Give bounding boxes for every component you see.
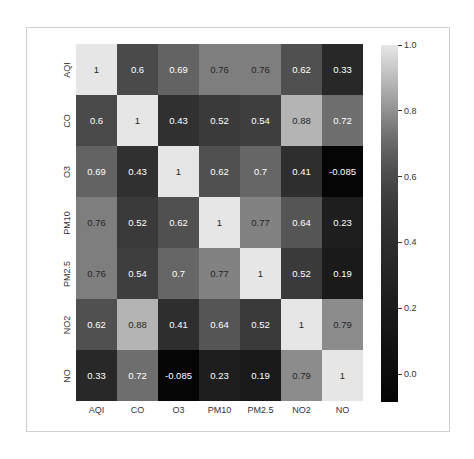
heatmap-cell: 0.79 xyxy=(281,350,322,401)
x-tick-label: CO xyxy=(117,405,158,415)
heatmap-cell: 0.62 xyxy=(76,299,117,350)
heatmap-cell: 0.79 xyxy=(322,299,363,350)
heatmap-cell: 0.72 xyxy=(322,95,363,146)
heatmap-cell: 0.52 xyxy=(199,95,240,146)
heatmap-cell: 0.41 xyxy=(281,146,322,197)
heatmap-cell: 1 xyxy=(158,146,199,197)
heatmap-cell: 0.23 xyxy=(199,350,240,401)
heatmap-cell: 1 xyxy=(240,248,281,299)
heatmap-cell: 0.6 xyxy=(117,44,158,95)
colorbar-tick-label: 0.0 xyxy=(404,369,417,379)
heatmap-cell: 0.54 xyxy=(240,95,281,146)
y-tick-label-text: CO xyxy=(62,114,72,128)
colorbar-tick-label: 0.4 xyxy=(404,237,417,247)
heatmap-cell: 0.52 xyxy=(117,197,158,248)
heatmap-cell: 0.77 xyxy=(199,248,240,299)
tick-mark xyxy=(398,308,402,309)
heatmap-cell: 0.76 xyxy=(76,197,117,248)
heatmap-cell: 0.7 xyxy=(240,146,281,197)
heatmap-cell: 1 xyxy=(76,44,117,95)
y-tick-label-text: PM10 xyxy=(62,211,72,235)
colorbar-tick: 0.0 xyxy=(398,368,417,380)
heatmap-cell: 0.33 xyxy=(322,44,363,95)
heatmap-cell: 0.6 xyxy=(76,95,117,146)
heatmap-cell: -0.085 xyxy=(322,146,363,197)
colorbar-tick-label: 0.8 xyxy=(404,106,417,116)
heatmap-cell: 0.72 xyxy=(117,350,158,401)
heatmap-cell: 0.64 xyxy=(199,299,240,350)
colorbar-tick: 1.0 xyxy=(398,39,417,51)
heatmap-cell: 0.43 xyxy=(158,95,199,146)
colorbar-tick: 0.8 xyxy=(398,105,417,117)
heatmap-cell: 0.19 xyxy=(240,350,281,401)
heatmap-cell: 0.41 xyxy=(158,299,199,350)
x-tick-label: NO2 xyxy=(281,405,322,415)
y-tick-label-text: AQI xyxy=(62,62,72,78)
heatmap-cell: 0.7 xyxy=(158,248,199,299)
tick-mark xyxy=(398,110,402,111)
heatmap-cell: 0.52 xyxy=(281,248,322,299)
heatmap-cell: 0.23 xyxy=(322,197,363,248)
heatmap-cell: 0.76 xyxy=(199,44,240,95)
x-tick-label: PM2.5 xyxy=(240,405,281,415)
colorbar-tick: 0.4 xyxy=(398,236,417,248)
tick-mark xyxy=(398,374,402,375)
heatmap-cell: 0.76 xyxy=(76,248,117,299)
heatmap-cell: 0.33 xyxy=(76,350,117,401)
colorbar-tick: 0.2 xyxy=(398,302,417,314)
colorbar xyxy=(381,45,398,402)
x-tick-label: O3 xyxy=(158,405,199,415)
heatmap-cell: 0.77 xyxy=(240,197,281,248)
heatmap-cell: 0.69 xyxy=(158,44,199,95)
heatmap-cell: 0.43 xyxy=(117,146,158,197)
tick-mark xyxy=(398,45,402,46)
colorbar-tick: 0.6 xyxy=(398,171,417,183)
colorbar-tick-label: 1.0 xyxy=(404,40,417,50)
colorbar-tick-label: 0.2 xyxy=(404,303,417,313)
tick-mark xyxy=(398,242,402,243)
heatmap-cell: 1 xyxy=(117,95,158,146)
heatmap-cell: 0.64 xyxy=(281,197,322,248)
heatmap-cell: 1 xyxy=(199,197,240,248)
heatmap-cell: 0.54 xyxy=(117,248,158,299)
y-tick-label-text: NO2 xyxy=(62,315,72,334)
y-tick-label-text: NO xyxy=(62,369,72,383)
heatmap-cell: 0.88 xyxy=(281,95,322,146)
x-tick-label: AQI xyxy=(76,405,117,415)
heatmap-cell: 0.76 xyxy=(240,44,281,95)
heatmap-cell: 0.69 xyxy=(76,146,117,197)
heatmap-cell: 0.52 xyxy=(240,299,281,350)
heatmap-cell: -0.085 xyxy=(158,350,199,401)
heatmap-cell: 0.62 xyxy=(199,146,240,197)
heatmap-cell: 1 xyxy=(281,299,322,350)
heatmap-cell: 1 xyxy=(322,350,363,401)
heatmap-cell: 0.19 xyxy=(322,248,363,299)
x-tick-label: NO xyxy=(322,405,363,415)
y-tick-label-text: O3 xyxy=(62,165,72,177)
x-tick-label: PM10 xyxy=(199,405,240,415)
heatmap-cell: 0.88 xyxy=(117,299,158,350)
correlation-heatmap: 10.60.690.760.760.620.330.610.430.520.54… xyxy=(76,44,363,401)
heatmap-cell: 0.62 xyxy=(281,44,322,95)
y-tick-label-text: PM2.5 xyxy=(62,260,72,286)
heatmap-cell: 0.62 xyxy=(158,197,199,248)
tick-mark xyxy=(398,176,402,177)
colorbar-tick-label: 0.6 xyxy=(404,172,417,182)
